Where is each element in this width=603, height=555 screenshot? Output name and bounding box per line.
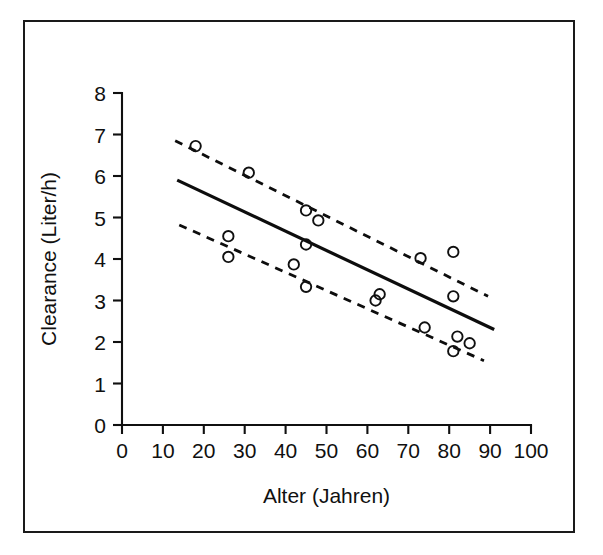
- data-points-group: [190, 141, 474, 356]
- x-tick-label: 90: [478, 439, 501, 462]
- y-tick-label: 1: [94, 373, 106, 396]
- y-tick-label: 2: [94, 331, 106, 354]
- data-point-marker: [223, 231, 233, 241]
- data-point-marker: [313, 215, 323, 225]
- data-point-marker: [464, 338, 474, 348]
- regression-line: [177, 180, 494, 329]
- y-axis-title: Clearance (Liter/h): [37, 172, 60, 346]
- axes-group: 0123456780102030405060708090100: [94, 82, 548, 462]
- data-point-marker: [452, 331, 462, 341]
- x-tick-label: 0: [116, 439, 128, 462]
- x-tick-label: 40: [274, 439, 297, 462]
- y-tick-label: 0: [94, 414, 106, 437]
- x-tick-label: 20: [192, 439, 215, 462]
- x-tick-label: 100: [513, 439, 548, 462]
- y-tick-label: 3: [94, 290, 106, 313]
- x-tick-label: 70: [397, 439, 420, 462]
- data-point-marker: [448, 247, 458, 257]
- confidence-interval-line: [179, 225, 484, 361]
- confidence-interval-line: [175, 141, 488, 297]
- data-point-marker: [289, 259, 299, 269]
- y-tick-label: 5: [94, 207, 106, 230]
- x-tick-label: 60: [356, 439, 379, 462]
- y-tick-label: 7: [94, 124, 106, 147]
- regression-line-group: [177, 180, 494, 329]
- data-point-marker: [301, 282, 311, 292]
- scatter-plot: 0123456780102030405060708090100 Alter (J…: [25, 22, 573, 531]
- x-tick-label: 30: [233, 439, 256, 462]
- x-tick-label: 50: [315, 439, 338, 462]
- axis-spine: [122, 93, 531, 425]
- y-tick-label: 8: [94, 82, 106, 105]
- x-axis-title: Alter (Jahren): [263, 484, 390, 507]
- x-tick-label: 10: [151, 439, 174, 462]
- x-tick-label: 80: [438, 439, 461, 462]
- data-point-marker: [223, 252, 233, 262]
- figure-frame: 0123456780102030405060708090100 Alter (J…: [23, 20, 575, 533]
- data-point-marker: [448, 291, 458, 301]
- data-point-marker: [301, 205, 311, 215]
- confidence-band-group: [175, 141, 488, 361]
- y-tick-label: 4: [94, 248, 106, 271]
- y-tick-label: 6: [94, 165, 106, 188]
- data-point-marker: [419, 322, 429, 332]
